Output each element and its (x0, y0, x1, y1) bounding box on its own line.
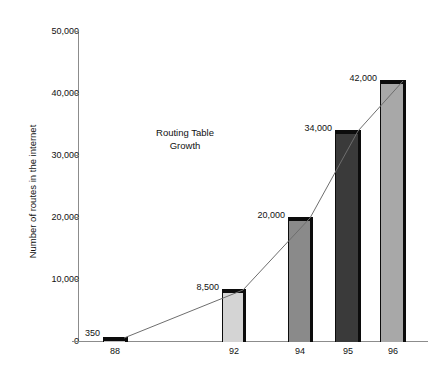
x-tick-label-94: 94 (285, 346, 315, 356)
annotation-line-2: Growth (123, 139, 247, 152)
x-tick-label-92: 92 (219, 346, 249, 356)
y-tick-mark (72, 341, 79, 342)
x-tick-label-88: 88 (100, 346, 130, 356)
y-tick-0: 50,000 (0, 27, 79, 36)
y-tick-2: 30,000 (0, 151, 79, 160)
bar-96 (380, 80, 406, 342)
trend-line (0, 0, 441, 374)
y-tick-mark (72, 31, 79, 32)
bar-95 (335, 130, 361, 342)
bar-94 (288, 217, 313, 342)
bar-value-label-95: 34,000 (290, 124, 332, 133)
y-tick-mark (72, 93, 79, 94)
bar-92 (222, 289, 246, 342)
x-tick-label-96: 96 (378, 346, 408, 356)
chart-annotation: Routing Table Growth (123, 126, 247, 152)
annotation-line-1: Routing Table (123, 126, 247, 139)
x-axis-line (78, 341, 428, 342)
y-axis-line (78, 31, 79, 342)
y-tick-1: 40,000 (0, 89, 79, 98)
x-tick-label-95: 95 (333, 346, 363, 356)
bar-value-label-94: 20,000 (243, 211, 285, 220)
y-axis-title: Number of routes in the internet (27, 82, 38, 302)
y-tick-3: 20,000 (0, 213, 79, 222)
y-tick-4: 10,000 (0, 275, 79, 284)
bar-value-label-88: 350 (72, 329, 100, 338)
y-tick-mark (72, 279, 79, 280)
bar-value-label-96: 42,000 (335, 74, 377, 83)
routing-table-growth-chart: Number of routes in the internet 50,0004… (0, 0, 441, 374)
bar-88 (103, 337, 128, 342)
y-tick-mark (72, 217, 79, 218)
bar-value-label-92: 8,500 (181, 283, 219, 292)
y-tick-mark (72, 155, 79, 156)
y-tick-5: 0 (0, 337, 79, 346)
